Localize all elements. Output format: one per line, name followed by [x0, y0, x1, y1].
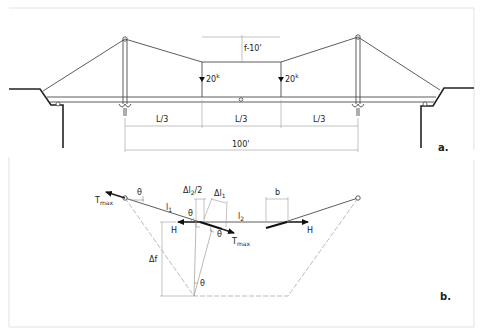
delta-l-dimensions: Δl2/2 Δl1	[183, 186, 227, 227]
tmax-right-arrow	[222, 229, 234, 233]
right-load-arrow	[278, 77, 284, 82]
tmax-right-label: Tmax	[231, 237, 250, 247]
vertical-construction	[194, 222, 196, 296]
left-load-label: 20k	[206, 72, 220, 84]
l1-label: l1	[166, 203, 172, 213]
left-abutment	[9, 89, 63, 148]
right-tower	[352, 35, 364, 116]
sag-dimension: f-10'	[202, 35, 280, 63]
suspension-bridge-diagram: 20k 20k f-10' L/3 L/3 L/3 100' a.	[0, 0, 483, 333]
span-segment-3: L/3	[313, 115, 325, 124]
cable-segment-right	[285, 198, 358, 222]
panel-b: Tmax Tmax H H θ l1 l2 θ Δl2/2 Δl1	[9, 157, 474, 327]
panel-b-label: b.	[440, 291, 451, 302]
delta-f-label: Δf	[149, 255, 157, 264]
deformed-segment-left	[200, 222, 222, 229]
theta-node-label: θ	[188, 209, 193, 218]
left-bearing	[56, 102, 60, 106]
b-label: b	[275, 188, 280, 197]
tmax-left-arrow	[106, 192, 125, 198]
theta-left-label: θ	[137, 188, 142, 197]
theta-lower-label: θ	[217, 230, 222, 239]
b-dimension: b	[266, 188, 288, 222]
main-cable	[43, 37, 440, 91]
sag-label: f-10'	[244, 44, 262, 53]
h-right-label: H	[307, 226, 313, 235]
span-dimensions: L/3 L/3 L/3 100'	[125, 100, 358, 152]
theta-bottom-label: θ	[200, 279, 205, 288]
center-hinge	[239, 98, 243, 102]
panel-a-label: a.	[438, 142, 449, 153]
delta-l1-label: Δl1	[214, 189, 226, 199]
right-anchor-node	[356, 196, 360, 200]
delta-l2-half-label: Δl2/2	[183, 186, 202, 196]
h-left-label: H	[171, 226, 177, 235]
total-span-label: 100'	[232, 140, 249, 149]
right-bearing	[423, 102, 427, 106]
l2-label: l2	[238, 212, 244, 222]
right-load-label: 20k	[285, 72, 299, 84]
left-load-arrow	[199, 77, 205, 82]
panel-a: 20k 20k f-10' L/3 L/3 L/3 100' a.	[9, 8, 474, 153]
left-tower	[119, 37, 131, 116]
sag-outline	[125, 198, 358, 296]
panel-a-frame	[9, 8, 474, 150]
deformed-segment-right	[266, 222, 287, 228]
span-segment-2: L/3	[235, 115, 247, 124]
tmax-left-label: Tmax	[94, 196, 113, 206]
span-segment-1: L/3	[156, 115, 168, 124]
